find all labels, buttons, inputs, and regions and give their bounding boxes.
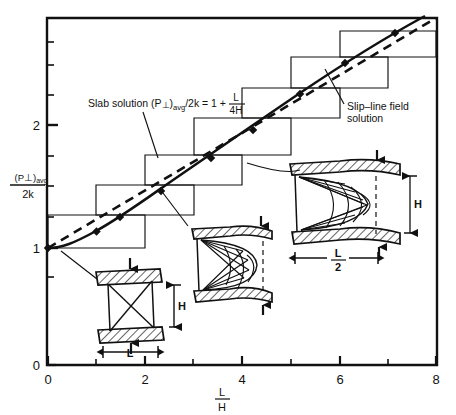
x-tick-label-2: 2 bbox=[141, 372, 148, 387]
diagram1-l-label: L bbox=[127, 347, 134, 359]
diagram3-h-label: H bbox=[414, 198, 422, 210]
y-axis-denominator: 2k bbox=[22, 188, 34, 200]
y-tick-label-2: 2 bbox=[33, 118, 40, 133]
y-tick-label-1: 1 bbox=[33, 241, 40, 256]
diagram3-l2-denominator: 2 bbox=[335, 261, 341, 273]
diagram3-l2-numerator: L bbox=[335, 247, 342, 259]
y-tick-label-0: 0 bbox=[33, 358, 40, 373]
slipline-label-line1: Slip–line field bbox=[347, 100, 409, 112]
x-axis-denominator: H bbox=[218, 401, 226, 413]
x-tick-label-4: 4 bbox=[238, 372, 245, 387]
x-axis-numerator: L bbox=[219, 386, 225, 398]
diagram1-h-label: H bbox=[178, 300, 186, 312]
figure-container: 0 1 2 0 2 4 6 8 (P⊥)avg 2k L H bbox=[0, 0, 456, 415]
x-tick-label-6: 6 bbox=[336, 372, 343, 387]
slipline-label-line2: solution bbox=[347, 112, 383, 124]
slab-formula-numerator: L bbox=[233, 92, 239, 103]
slab-formula-denominator: 4H bbox=[230, 105, 243, 116]
x-tick-label-8: 8 bbox=[432, 372, 439, 387]
chart-svg: 0 1 2 0 2 4 6 8 (P⊥)avg 2k L H bbox=[0, 0, 456, 415]
diagram1-bottom-platen bbox=[98, 327, 164, 343]
x-tick-label-0: 0 bbox=[44, 372, 51, 387]
